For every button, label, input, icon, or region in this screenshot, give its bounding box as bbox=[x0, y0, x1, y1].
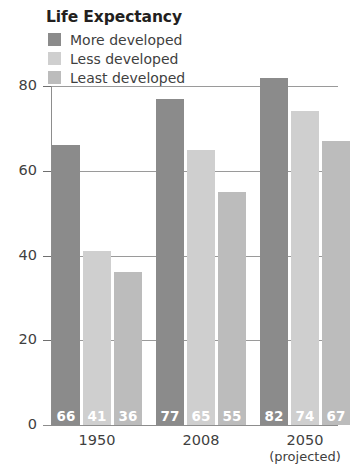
x-axis-group-sublabel: (projected) bbox=[248, 449, 354, 465]
chart-legend: More developedLess developedLeast develo… bbox=[48, 30, 185, 87]
bar-value-label: 36 bbox=[114, 410, 142, 424]
legend-item: Least developed bbox=[48, 68, 185, 87]
y-axis-line bbox=[51, 86, 52, 426]
bar: 41 bbox=[83, 251, 111, 425]
bar-value-label: 55 bbox=[218, 410, 246, 424]
x-axis-group-label-text: 2008 bbox=[183, 432, 220, 448]
bar: 55 bbox=[218, 192, 246, 425]
legend-item: Less developed bbox=[48, 49, 185, 68]
bar-value-label: 74 bbox=[291, 410, 319, 424]
legend-item-label: Least developed bbox=[70, 71, 185, 85]
bar: 77 bbox=[156, 99, 184, 425]
legend-item-label: More developed bbox=[70, 33, 182, 47]
bar: 66 bbox=[52, 145, 80, 425]
bar-value-label: 67 bbox=[322, 410, 350, 424]
bar: 65 bbox=[187, 150, 215, 425]
x-axis-group-label: 2008 bbox=[144, 432, 258, 449]
bar: 67 bbox=[322, 141, 350, 425]
bar-value-label: 82 bbox=[260, 410, 288, 424]
x-axis-line bbox=[43, 425, 338, 426]
bar: 82 bbox=[260, 78, 288, 425]
x-axis-group-label: 2050(projected) bbox=[248, 432, 354, 465]
legend-item-label: Less developed bbox=[70, 52, 178, 66]
x-axis-group-label: 1950 bbox=[40, 432, 154, 449]
bar: 74 bbox=[291, 111, 319, 425]
bar: 36 bbox=[114, 272, 142, 425]
bar-value-label: 77 bbox=[156, 410, 184, 424]
legend-swatch-icon bbox=[48, 52, 61, 65]
x-axis-group-label-text: 2050 bbox=[287, 432, 324, 448]
legend-item: More developed bbox=[48, 30, 185, 49]
legend-swatch-icon bbox=[48, 71, 61, 84]
bar-value-label: 65 bbox=[187, 410, 215, 424]
legend-swatch-icon bbox=[48, 33, 61, 46]
bar-value-label: 66 bbox=[52, 410, 80, 424]
x-axis-group-label-text: 1950 bbox=[79, 432, 116, 448]
bar-value-label: 41 bbox=[83, 410, 111, 424]
